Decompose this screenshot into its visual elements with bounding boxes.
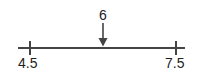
down-arrow-icon bbox=[99, 23, 108, 47]
tick-label-right: 7.5 bbox=[165, 56, 184, 70]
tick-label-left: 4.5 bbox=[18, 56, 37, 70]
number-line-diagram: 6 4.5 7.5 bbox=[0, 0, 198, 79]
marker-label: 6 bbox=[99, 8, 107, 22]
